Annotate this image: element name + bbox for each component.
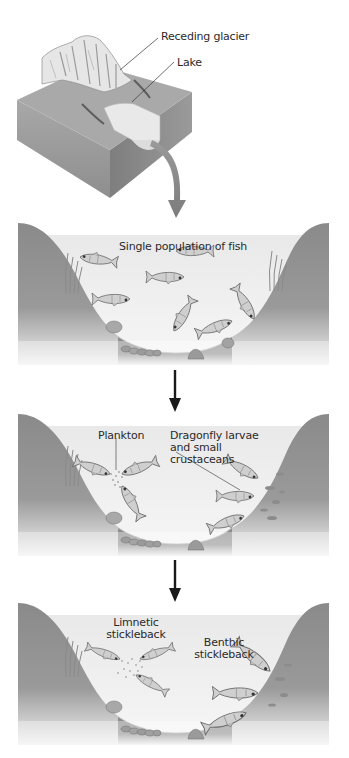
panel-1-single-population: Single population of fish xyxy=(18,223,329,365)
label-lake: Lake xyxy=(177,57,202,69)
label-benthic-stickleback: stickleback xyxy=(184,649,264,661)
panel-3-two-species: Limnetic stickleback Benthic stickleback xyxy=(18,603,329,745)
label-limnetic-stickleback: stickleback xyxy=(96,629,176,641)
label-receding-glacier: Receding glacier xyxy=(161,31,249,43)
rock-icon xyxy=(106,512,122,524)
down-arrow-icon xyxy=(165,560,185,604)
label-crustaceans: crustaceans xyxy=(170,454,234,466)
label-single-population: Single population of fish xyxy=(119,241,247,253)
rock-icon xyxy=(106,321,122,333)
curved-arrow-icon xyxy=(0,140,349,230)
panel-2-food-sources: Plankton Dragonfly larvae and small crus… xyxy=(18,414,329,556)
down-arrow-icon xyxy=(165,370,185,414)
label-plankton: Plankton xyxy=(98,430,144,442)
rock-icon xyxy=(106,701,122,713)
